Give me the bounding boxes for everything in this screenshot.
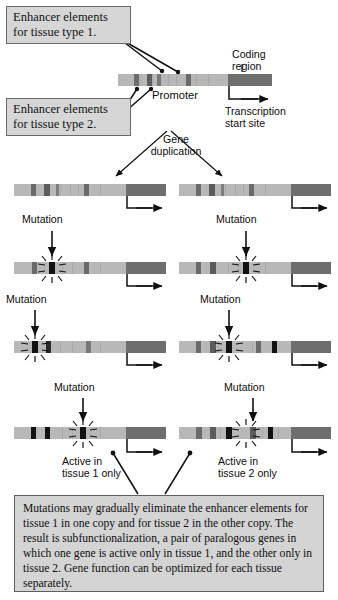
enhancer-stripe xyxy=(196,341,201,353)
enhancer-stripe xyxy=(86,341,91,353)
label-enhancer-tissue-1: Enhancer elements for tissue type 1. xyxy=(6,6,131,44)
enhancer-stripe xyxy=(32,262,37,274)
label-mutation-r4-right: Mutation xyxy=(224,381,290,393)
gene-construct-duplicate-copy-1-row2 xyxy=(14,254,166,286)
gene-construct-paralog-active-tissue2 xyxy=(179,419,331,452)
figure-caption: Mutations may gradually eliminate the en… xyxy=(14,495,324,592)
enhancer-stripe xyxy=(56,184,59,196)
coding-region-block xyxy=(126,427,166,439)
enhancer-stripe xyxy=(44,184,50,196)
label-gene-duplication: Gene duplication xyxy=(140,133,212,158)
gene-construct-duplicate-copy-1-row3 xyxy=(14,333,166,365)
enhancer-stripe-mutated xyxy=(32,341,38,353)
enhancer-stripe xyxy=(249,184,254,196)
enhancer-stripe xyxy=(134,74,139,86)
enhancer-stripe xyxy=(157,74,161,86)
label-transcription-start-site: Transcription start site xyxy=(225,105,311,130)
enhancer-stripe xyxy=(196,184,201,196)
enhancer-stripe xyxy=(256,341,261,353)
figure-canvas: Enhancer elements for tissue type 1. Enh… xyxy=(0,0,338,600)
enhancer-stripe xyxy=(196,427,202,439)
enhancer-stripe xyxy=(84,184,89,196)
coding-region-block xyxy=(228,74,272,86)
label-coding-region: Coding region xyxy=(232,48,292,73)
enhancer-stripe xyxy=(209,184,215,196)
label-promoter: Promoter xyxy=(152,89,228,102)
enhancer-stripe-mutated xyxy=(226,427,232,439)
gene-construct-duplicate-copy-1-row1 xyxy=(14,184,166,208)
label-active-in-tissue-2: Active in tissue 2 only xyxy=(218,455,302,480)
gene-construct-duplicate-copy-2-row1 xyxy=(179,184,331,208)
coding-region-block xyxy=(126,184,166,196)
enhancer-stripe-mutated xyxy=(226,341,232,353)
enhancer-stripe xyxy=(186,74,191,86)
coding-region-block xyxy=(291,341,331,353)
label-enhancer-tissue-2: Enhancer elements for tissue type 2. xyxy=(6,98,131,136)
label-mutation-r3-left: Mutation xyxy=(6,293,72,305)
label-active-in-tissue-1: Active in tissue 1 only xyxy=(62,455,142,480)
label-mutation-r3-right: Mutation xyxy=(200,293,266,305)
gene-construct-duplicate-copy-2-row2 xyxy=(179,254,331,286)
enhancer-stripe-mutated xyxy=(268,427,273,439)
enhancer-stripe-mutated xyxy=(49,262,55,274)
enhancer-stripe-mutated xyxy=(31,427,36,439)
coding-region-block xyxy=(126,262,166,274)
enhancer-stripe xyxy=(84,262,89,274)
enhancer-stripe-mutated xyxy=(80,427,86,439)
enhancer-stripe xyxy=(221,184,224,196)
enhancer-stripe-mutated xyxy=(272,341,277,353)
label-mutation-r2-left: Mutation xyxy=(22,213,88,225)
coding-region-block xyxy=(291,184,331,196)
enhancer-stripe-mutated xyxy=(45,427,50,439)
label-mutation-r2-right: Mutation xyxy=(216,213,282,225)
enhancer-stripe xyxy=(250,427,256,439)
enhancer-stripe xyxy=(31,184,36,196)
enhancer-stripe xyxy=(210,427,216,439)
label-mutation-r4-left: Mutation xyxy=(54,381,120,393)
gene-construct-duplicate-copy-2-row3 xyxy=(179,333,331,365)
coding-region-block xyxy=(291,427,331,439)
enhancer-stripe xyxy=(196,262,201,274)
coding-region-block xyxy=(126,341,166,353)
enhancer-stripe xyxy=(210,262,216,274)
enhancer-stripe-mutated xyxy=(243,262,249,274)
gene-construct-paralog-active-tissue1 xyxy=(14,419,166,452)
enhancer-stripe xyxy=(147,74,152,86)
coding-region-block xyxy=(291,262,331,274)
